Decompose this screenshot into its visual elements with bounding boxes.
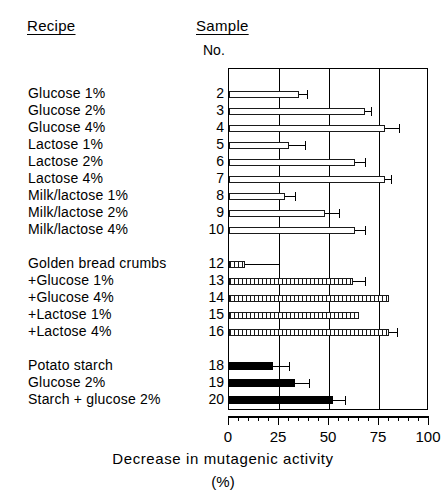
error-bar-cap (345, 396, 346, 405)
data-bar (229, 379, 295, 387)
error-bar-cap (295, 192, 296, 201)
error-bar-cap (339, 209, 340, 218)
error-bar-cap (391, 175, 392, 184)
error-bar-cap (399, 124, 400, 133)
error-bar-line (353, 281, 365, 282)
x-tick-major (428, 416, 429, 425)
bar-row (229, 324, 429, 341)
x-tick-minor (258, 416, 259, 421)
sample-number: 14 (186, 289, 224, 306)
data-bar (229, 108, 365, 115)
data-bar (229, 278, 353, 285)
x-tick-label: 25 (258, 428, 298, 445)
x-tick-minor (238, 416, 239, 421)
x-tick-minor (268, 416, 269, 421)
error-bar-cap (305, 141, 306, 150)
data-bar (229, 261, 245, 268)
plot-area (228, 68, 428, 410)
x-tick-major (378, 416, 379, 425)
data-bar (229, 312, 359, 319)
error-bar-line (325, 213, 339, 214)
x-tick-minor (308, 416, 309, 421)
x-tick-minor (398, 416, 399, 421)
data-bar (229, 295, 389, 302)
error-bar-line (389, 332, 397, 333)
x-tick-minor (338, 416, 339, 421)
bar-row (229, 222, 429, 239)
bar-row (229, 171, 429, 188)
bar-row (229, 358, 429, 375)
sample-number: 13 (186, 272, 224, 289)
x-tick-minor (298, 416, 299, 421)
sample-number: 5 (186, 136, 224, 153)
x-axis-title: Decrease in mutagenic activity (0, 450, 446, 467)
x-tick-label: 75 (358, 428, 398, 445)
sample-number: 15 (186, 306, 224, 323)
data-bar (229, 362, 273, 370)
error-bar-cap (371, 107, 372, 116)
error-bar-line (273, 366, 289, 367)
x-tick-minor (318, 416, 319, 421)
sample-number: 10 (186, 221, 224, 238)
data-bar (229, 193, 285, 200)
sample-number: 8 (186, 187, 224, 204)
bar-row (229, 154, 429, 171)
error-bar-line (245, 264, 279, 265)
error-bar-cap (365, 158, 366, 167)
x-tick-minor (348, 416, 349, 421)
error-bar-cap (397, 328, 398, 337)
x-tick-minor (358, 416, 359, 421)
x-tick-label: 50 (308, 428, 348, 445)
bar-row (229, 375, 429, 392)
bar-row (229, 86, 429, 103)
x-tick-minor (408, 416, 409, 421)
error-bar-cap (365, 277, 366, 286)
error-bar-line (385, 128, 399, 129)
sample-number: 19 (186, 374, 224, 391)
sample-number: 3 (186, 102, 224, 119)
sample-number: 20 (186, 391, 224, 408)
data-bar (229, 210, 325, 217)
bar-row (229, 392, 429, 409)
x-tick-minor (288, 416, 289, 421)
x-tick-minor (248, 416, 249, 421)
sample-number: 7 (186, 170, 224, 187)
x-tick-major (278, 416, 279, 425)
error-bar-line (355, 162, 365, 163)
sample-number: 16 (186, 323, 224, 340)
data-bar (229, 176, 385, 183)
x-tick-major (228, 416, 229, 425)
bar-row (229, 103, 429, 120)
error-bar-cap (309, 379, 310, 388)
error-bar-line (299, 94, 307, 95)
error-bar-cap (289, 362, 290, 371)
data-bar (229, 125, 385, 132)
x-tick-label: 100 (408, 428, 446, 445)
sample-number: 12 (186, 255, 224, 272)
sample-number: 18 (186, 357, 224, 374)
bar-row (229, 290, 429, 307)
bar-row (229, 137, 429, 154)
x-tick-major (328, 416, 329, 425)
x-tick-minor (368, 416, 369, 421)
data-bar (229, 159, 355, 166)
error-bar-line (333, 400, 345, 401)
sample-number-column: 23456789101213141516181920 (0, 0, 228, 420)
bar-row (229, 256, 429, 273)
data-bar (229, 142, 289, 149)
figure-mutagenic-activity-chart: Recipe Sample No. Glucose 1%Glucose 2%Gl… (0, 0, 446, 495)
error-bar-cap (307, 90, 308, 99)
bar-row (229, 205, 429, 222)
data-bar (229, 91, 299, 98)
data-bar (229, 396, 333, 404)
bar-row (229, 188, 429, 205)
bar-row (229, 307, 429, 324)
x-tick-minor (418, 416, 419, 421)
sample-number: 9 (186, 204, 224, 221)
bar-row (229, 120, 429, 137)
x-tick-label: 0 (208, 428, 248, 445)
sample-number: 4 (186, 119, 224, 136)
error-bar-line (289, 145, 305, 146)
error-bar-line (295, 383, 309, 384)
sample-number: 2 (186, 85, 224, 102)
